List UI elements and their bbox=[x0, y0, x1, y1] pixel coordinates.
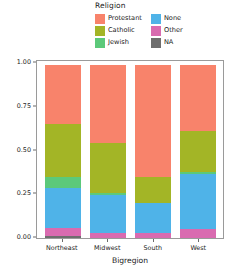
legend-item-none[interactable]: None bbox=[151, 13, 183, 24]
x-tick-label: West bbox=[180, 244, 216, 252]
legend-label-catholic: Catholic bbox=[108, 26, 135, 35]
bar-segment-protestant[interactable] bbox=[45, 65, 81, 124]
legend-swatch-catholic-icon bbox=[95, 26, 105, 36]
x-tick-west: West bbox=[180, 239, 216, 253]
bar-segment-catholic[interactable] bbox=[135, 177, 171, 203]
y-tick-label: 0.00 bbox=[17, 233, 31, 241]
bar-west[interactable] bbox=[180, 65, 216, 238]
bar-segment-none[interactable] bbox=[135, 203, 171, 232]
x-axis: NortheastMidwestSouthWest bbox=[36, 239, 224, 253]
bar-segment-jewish[interactable] bbox=[45, 177, 81, 187]
bar-segment-other[interactable] bbox=[180, 229, 216, 238]
bar-segment-none[interactable] bbox=[180, 174, 216, 229]
x-tick-label: South bbox=[135, 244, 171, 252]
x-tick-mark bbox=[62, 239, 63, 242]
legend-column-left: Protestant Catholic Jewish bbox=[95, 13, 142, 48]
y-tick-label: 0.25 bbox=[17, 189, 31, 197]
y-tick-label: 0.50 bbox=[17, 146, 31, 154]
legend-item-catholic[interactable]: Catholic bbox=[95, 25, 142, 36]
bar-segment-none[interactable] bbox=[90, 195, 126, 233]
legend-item-na[interactable]: NA bbox=[151, 37, 183, 48]
bar-segment-other[interactable] bbox=[90, 233, 126, 238]
bar-segment-none[interactable] bbox=[45, 188, 81, 228]
x-axis-label: Bigregion bbox=[36, 256, 224, 265]
legend-label-none: None bbox=[164, 14, 181, 23]
x-tick-label: Midwest bbox=[89, 244, 125, 252]
bar-segment-other[interactable] bbox=[135, 233, 171, 238]
bar-midwest[interactable] bbox=[90, 65, 126, 238]
bar-segment-other[interactable] bbox=[45, 228, 81, 237]
y-axis: Count 0.000.250.500.751.00 bbox=[0, 60, 36, 239]
bar-segment-na[interactable] bbox=[45, 236, 81, 238]
bar-segment-catholic[interactable] bbox=[45, 124, 81, 178]
x-tick-label: Northeast bbox=[44, 244, 80, 252]
x-tick-mark bbox=[198, 239, 199, 242]
chart-legend: Religion Protestant Catholic Jewish bbox=[88, 1, 198, 48]
bar-segment-protestant[interactable] bbox=[180, 65, 216, 131]
bar-segment-protestant[interactable] bbox=[135, 65, 171, 178]
bar-northeast[interactable] bbox=[45, 65, 81, 238]
x-tick-midwest: Midwest bbox=[89, 239, 125, 253]
bar-segment-catholic[interactable] bbox=[180, 131, 216, 173]
legend-swatch-none-icon bbox=[151, 14, 161, 24]
x-tick-mark bbox=[153, 239, 154, 242]
legend-label-protestant: Protestant bbox=[108, 14, 142, 23]
legend-title: Religion bbox=[95, 1, 198, 10]
legend-label-jewish: Jewish bbox=[108, 38, 129, 47]
y-tick-label: 0.75 bbox=[17, 102, 31, 110]
y-tick-label: 1.00 bbox=[17, 58, 31, 66]
legend-item-other[interactable]: Other bbox=[151, 25, 183, 36]
stacked-bar-chart: Religion Protestant Catholic Jewish bbox=[0, 0, 238, 275]
legend-swatch-na-icon bbox=[151, 38, 161, 48]
x-tick-northeast: Northeast bbox=[44, 239, 80, 253]
x-tick-mark bbox=[107, 239, 108, 242]
legend-item-jewish[interactable]: Jewish bbox=[95, 37, 142, 48]
bar-group bbox=[37, 61, 223, 238]
legend-swatch-protestant-icon bbox=[95, 14, 105, 24]
legend-column-right: None Other NA bbox=[151, 13, 183, 48]
legend-label-na: NA bbox=[164, 38, 173, 47]
legend-label-other: Other bbox=[164, 26, 183, 35]
legend-swatch-other-icon bbox=[151, 26, 161, 36]
plot-panel bbox=[36, 60, 224, 239]
legend-item-protestant[interactable]: Protestant bbox=[95, 13, 142, 24]
bar-segment-protestant[interactable] bbox=[90, 65, 126, 143]
x-tick-south: South bbox=[135, 239, 171, 253]
legend-swatch-jewish-icon bbox=[95, 38, 105, 48]
bar-segment-catholic[interactable] bbox=[90, 143, 126, 193]
bar-south[interactable] bbox=[135, 65, 171, 238]
legend-columns: Protestant Catholic Jewish None bbox=[95, 13, 198, 48]
